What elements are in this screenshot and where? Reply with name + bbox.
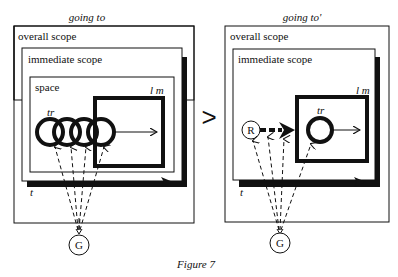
left-trajector-label: tr — [47, 106, 55, 118]
right-overall-scope-label: overall scope — [230, 30, 288, 42]
right-trajector-label: tr — [317, 104, 325, 116]
figure-caption: Figure 7 — [176, 258, 215, 270]
left-panel: going to overall scope immediate scope s… — [14, 11, 194, 255]
right-title: going to' — [283, 11, 322, 23]
left-title: going to — [69, 11, 106, 23]
left-overall-scope-label: overall scope — [18, 30, 76, 42]
left-landmark-label: l m — [150, 84, 164, 96]
right-time-label: t — [240, 186, 244, 198]
comparator-symbol: > — [201, 102, 216, 132]
left-space-label: space — [35, 81, 60, 93]
right-immediate-scope-label: immediate scope — [238, 53, 312, 65]
left-immediate-scope-label: immediate scope — [28, 53, 102, 65]
right-landmark-label: l m — [356, 84, 370, 96]
right-panel: going to' immediate scope overall scope … — [225, 11, 389, 253]
left-ground-label: G — [75, 239, 83, 251]
left-time-label: t — [30, 186, 34, 198]
right-reference-label: R — [247, 124, 255, 136]
right-ground-label: G — [276, 237, 284, 249]
figure-7-diagram: going to overall scope immediate scope s… — [0, 0, 398, 277]
